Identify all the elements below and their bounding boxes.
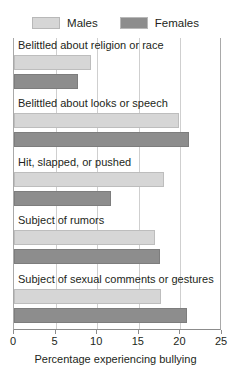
x-tick-label: 20 bbox=[167, 335, 191, 348]
bar-males bbox=[14, 172, 164, 187]
x-tick-label: 15 bbox=[126, 335, 150, 348]
bar-group: Subject of rumors bbox=[14, 213, 220, 271]
bar-group: Hit, slapped, or pushed bbox=[14, 155, 220, 213]
x-tick-mark bbox=[221, 330, 222, 334]
bullying-bar-chart: Males Females Belittled about religion o… bbox=[0, 0, 231, 375]
chart-legend: Males Females bbox=[0, 14, 231, 32]
bar-females bbox=[14, 308, 187, 323]
bar-males bbox=[14, 113, 179, 128]
x-tick-mark bbox=[96, 330, 97, 334]
bar-group-label: Hit, slapped, or pushed bbox=[18, 155, 131, 170]
x-tick-mark bbox=[13, 330, 14, 334]
bar-group-label: Belittled about religion or race bbox=[18, 38, 164, 53]
x-tick-label: 10 bbox=[84, 335, 108, 348]
x-tick-mark bbox=[179, 330, 180, 334]
bar-females bbox=[14, 249, 160, 264]
bar-group-label: Belittled about looks or speech bbox=[18, 96, 168, 111]
bar-females bbox=[14, 132, 189, 147]
plot-area: Belittled about religion or raceBelittle… bbox=[13, 38, 221, 330]
bar-group: Belittled about religion or race bbox=[14, 38, 220, 96]
bar-group-label: Subject of rumors bbox=[18, 213, 104, 228]
x-tick-mark bbox=[55, 330, 56, 334]
bar-group-label: Subject of sexual comments or gestures bbox=[18, 272, 214, 287]
bar-females bbox=[14, 74, 78, 89]
x-axis-title: Percentage experiencing bullying bbox=[0, 352, 231, 366]
x-tick-label: 0 bbox=[1, 335, 25, 348]
x-tick-mark bbox=[138, 330, 139, 334]
bar-males bbox=[14, 230, 155, 245]
bar-group: Belittled about looks or speech bbox=[14, 96, 220, 154]
bar-males bbox=[14, 55, 91, 70]
bar-males bbox=[14, 289, 161, 304]
bar-females bbox=[14, 191, 111, 206]
x-tick-label: 25 bbox=[209, 335, 231, 348]
legend-entry-males: Males bbox=[32, 17, 98, 29]
legend-label-males: Males bbox=[67, 17, 98, 29]
bar-group: Subject of sexual comments or gestures bbox=[14, 272, 220, 330]
legend-swatch-females bbox=[120, 17, 148, 29]
legend-swatch-males bbox=[32, 17, 60, 29]
x-tick-label: 5 bbox=[43, 335, 67, 348]
legend-entry-females: Females bbox=[120, 17, 199, 29]
legend-label-females: Females bbox=[155, 17, 199, 29]
